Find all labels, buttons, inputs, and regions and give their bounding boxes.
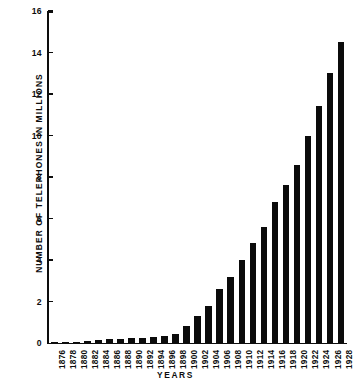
x-tick-label: 1902 [201,350,210,369]
x-tick-label: 1908 [234,350,243,369]
bar [338,42,345,343]
plot-area [49,11,347,343]
y-tick-label: 14 [20,48,42,58]
bar [272,202,279,343]
y-tick-label: 6 [20,214,42,224]
x-tick-label: 1892 [146,350,155,369]
y-tick-label: 2 [20,297,42,307]
x-tick-label: 1876 [58,350,67,369]
y-tick-label: 16 [20,6,42,16]
bar [172,334,179,343]
bar [261,227,268,343]
x-tick-label: 1916 [278,350,287,369]
y-tick-label: 12 [20,89,42,99]
x-tick-label: 1904 [212,350,221,369]
x-tick-label: 1878 [69,350,78,369]
x-axis-title: YEARS [0,370,351,380]
x-tick-label: 1896 [168,350,177,369]
x-tick-label: 1910 [245,350,254,369]
bar [239,260,246,343]
x-tick-label: 1906 [223,350,232,369]
x-tick-label: 1922 [311,350,320,369]
bar [250,243,257,343]
x-tick-label: 1920 [300,350,309,369]
bar [128,338,135,343]
bar [161,336,168,343]
bar [205,306,212,343]
y-tick-label: 0 [20,338,42,348]
x-tick-label: 1918 [289,350,298,369]
x-tick-label: 1886 [113,350,122,369]
bar [316,106,323,343]
x-tick-label: 1926 [334,350,343,369]
x-tick-label: 1900 [190,350,199,369]
x-tick-label: 1924 [322,350,331,369]
bar [227,277,234,343]
x-tick-label: 1928 [345,350,354,369]
x-tick-label: 1884 [102,350,111,369]
bar [84,341,91,343]
bar [150,337,157,343]
bar [294,165,301,343]
bar [216,289,223,343]
bar [327,73,334,343]
bar [117,339,124,343]
y-tick-label: 4 [20,255,42,265]
y-tick-label: 8 [20,172,42,182]
y-tick-label: 10 [20,131,42,141]
x-tick-label: 1888 [124,350,133,369]
x-tick-label: 1898 [179,350,188,369]
x-axis-tick-labels: 1876187818801882188418861888189018921894… [49,345,347,371]
x-tick-label: 1912 [256,350,265,369]
bar [51,342,58,343]
bar [283,185,290,343]
x-tick-label: 1894 [157,350,166,369]
bar [73,342,80,343]
bar [95,340,102,343]
x-tick-label: 1880 [80,350,89,369]
bar [305,136,312,344]
x-tick-label: 1882 [91,350,100,369]
bar [183,326,190,343]
bar [139,338,146,343]
bar [194,316,201,343]
x-tick-label: 1890 [135,350,144,369]
bar [62,342,69,343]
x-tick-label: 1914 [267,350,276,369]
bar [106,339,113,343]
